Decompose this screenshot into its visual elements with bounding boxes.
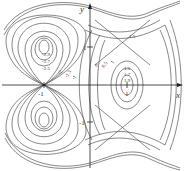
y-axis-arrow-icon [88, 3, 92, 9]
contour-plot: y x 1 -1 -1 1 -2.9 -2.7 -2.5 -2 -1.5 -1 … [0, 0, 186, 171]
contour-label: 1.9 [124, 78, 131, 83]
x-tick-neg1: -1 [38, 90, 44, 98]
contour-label: -2.5 [42, 66, 50, 71]
contour-label: -2.9 [42, 52, 50, 57]
contour-label: -1 [71, 74, 78, 81]
contour-label: -2.7 [42, 59, 50, 64]
y-axis-label: y [79, 4, 84, 14]
contour-label: -2 [57, 69, 64, 76]
contour-label: 1.7 [124, 72, 131, 77]
x-axis-label: x [175, 90, 180, 100]
contour-label: 0.5 [101, 60, 109, 68]
y-tick-neg1: -1 [79, 119, 85, 127]
x-tick-1: 1 [125, 90, 129, 98]
contour-label: 1.5 [129, 34, 136, 39]
y-tick-1: 1 [83, 44, 87, 52]
contour-label: 1 [110, 59, 116, 64]
x-axis-arrow-icon [177, 83, 183, 87]
contour-label: 1.5 [124, 66, 131, 71]
